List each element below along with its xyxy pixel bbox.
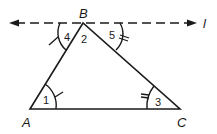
angle-label-4: 4 (64, 31, 70, 43)
arrowhead-left-icon (9, 20, 19, 27)
angle-label-5: 5 (109, 29, 115, 41)
line-label-l: l (203, 16, 207, 31)
angle-4-tick (49, 37, 58, 45)
angle-1-tick (55, 92, 63, 97)
angle-label-2: 2 (81, 33, 87, 45)
vertex-label-c: C (177, 115, 187, 130)
angle-label-1: 1 (43, 94, 49, 106)
geometry-diagram: B A C l 4 2 5 1 3 (0, 0, 217, 134)
vertex-label-b: B (79, 6, 88, 21)
vertex-label-a: A (21, 115, 31, 130)
arrowhead-right-icon (187, 20, 197, 27)
angle-5-arc (116, 23, 123, 50)
angle-label-3: 3 (155, 96, 161, 108)
angle-5-tick-2 (119, 38, 128, 41)
angle-5-tick-1 (120, 35, 129, 38)
angle-3-tick-1 (141, 94, 149, 95)
